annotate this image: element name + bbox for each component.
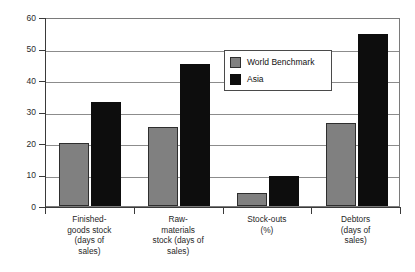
gridline — [46, 51, 399, 52]
y-axis-label: 0 — [31, 203, 36, 212]
x-axis-tick — [223, 207, 224, 214]
bar-world-benchmark — [148, 127, 178, 206]
x-axis-tick — [311, 207, 312, 214]
y-axis-label: 60 — [27, 14, 36, 23]
y-axis-label: 50 — [27, 45, 36, 54]
bar-asia — [91, 102, 121, 206]
y-axis-tick — [39, 50, 46, 51]
y-axis-label: 40 — [27, 77, 36, 86]
legend-swatch-asia — [230, 74, 241, 85]
x-axis-tick — [134, 207, 135, 214]
y-axis-tick — [39, 176, 46, 177]
chart-legend: World Benchmark Asia — [224, 50, 332, 91]
x-axis-tick — [400, 207, 401, 214]
y-axis-tick — [39, 113, 46, 114]
y-axis-label: 30 — [27, 108, 36, 117]
x-axis-category-label: Debtors (days of sales) — [311, 214, 400, 246]
y-axis-tick — [39, 18, 46, 19]
x-axis-category-label: Finished- goods stock (days of sales) — [45, 214, 134, 256]
y-axis-tick — [39, 81, 46, 82]
bar-asia — [180, 64, 210, 206]
y-axis-label: 10 — [27, 171, 36, 180]
legend-swatch-world-benchmark — [230, 57, 241, 68]
bar-world-benchmark — [59, 143, 89, 206]
y-axis-label: 20 — [27, 140, 36, 149]
x-axis-tick — [45, 207, 46, 214]
bar-world-benchmark — [237, 193, 267, 206]
legend-item-world-benchmark: World Benchmark — [230, 55, 326, 69]
bar-asia — [269, 176, 299, 206]
legend-label-asia: Asia — [247, 74, 264, 84]
x-axis-category-label: Raw- materials stock (days of sales) — [134, 214, 223, 256]
bar-world-benchmark — [326, 123, 356, 206]
bar-asia — [358, 34, 388, 206]
y-axis-tick — [39, 144, 46, 145]
bar-chart: 0102030405060 Finished- goods stock (day… — [0, 0, 415, 272]
legend-item-asia: Asia — [230, 72, 326, 86]
legend-label-world-benchmark: World Benchmark — [247, 57, 314, 67]
x-axis-category-label: Stock-outs (%) — [223, 214, 312, 235]
plot-area — [45, 18, 400, 207]
gridline — [46, 82, 399, 83]
